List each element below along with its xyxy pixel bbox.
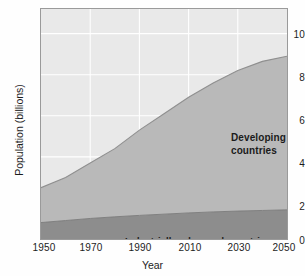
y-axis-title: Population (billions) [13,55,25,205]
x-axis-title: Year [0,259,305,271]
developing-countries-label: Developing countries [231,132,286,157]
plot-area: Developing countries Industrially advanc… [40,8,288,240]
population-area-chart: Population (billions) 10 8 6 4 2 0 Devel… [0,0,305,276]
developing-countries-label-line1: Developing [231,132,286,143]
x-tick-2030: 2030 [227,242,250,253]
x-tick-2050: 2050 [272,242,295,253]
chart-canvas [41,9,287,239]
x-tick-1950: 1950 [32,242,55,253]
x-tick-1990: 1990 [128,242,151,253]
developing-countries-label-line2: countries [231,145,277,156]
x-tick-1970: 1970 [79,242,102,253]
x-tick-2010: 2010 [178,242,201,253]
industrially-advanced-countries-label: Industrially advanced countries [125,235,271,240]
